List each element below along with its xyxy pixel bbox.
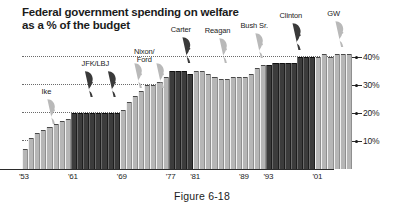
chart-title-line-1: Federal government spending on welfare [22,6,252,19]
president-head-icon [169,36,192,63]
president-label: Reagan [205,27,231,35]
president-label-line: Ike [42,87,52,96]
y-axis-label: 20% [363,108,379,118]
president-label: Clinton [280,12,303,20]
president-label: Nixon/Ford [134,48,155,64]
x-axis-label: '89 [239,172,249,181]
president-head-icon [243,32,265,58]
y-axis-label: 10% [363,136,379,146]
figure-6-18: Federal government spending on welfare a… [0,0,404,214]
x-axis-label: '61 [68,172,78,181]
president-label: Carter [171,26,191,34]
y-axis-tick-dot [355,140,358,143]
president-label-line: GW [327,9,340,18]
y-axis-label: 40% [363,52,379,62]
president-label-line: Reagan [205,26,231,35]
y-axis-label: 30% [363,80,379,90]
president-label: Bush Sr. [240,22,268,30]
x-axis-label: '53 [19,172,29,181]
x-axis-label: '77 [166,172,176,181]
president-head-icon [279,22,303,50]
president-head-icon [35,98,57,124]
figure-caption: Figure 6-18 [0,190,404,202]
president-label-line: Bush Sr. [240,21,268,30]
president-label: Ike [42,88,52,96]
president-label-line: JFK/LBJ [82,59,110,68]
president-label: GW [327,10,340,18]
y-axis-tick-dot [355,56,358,59]
x-axis-label: '81 [190,172,200,181]
x-axis-label: '93 [264,172,274,181]
president-head-icon [207,37,229,63]
president-head-icon [72,70,118,97]
x-axis-label: '69 [117,172,127,181]
y-axis-tick-dot [355,84,358,87]
president-label-line: Carter [171,25,191,34]
president-label-line: Ford [137,55,152,64]
president-label-line: Clinton [280,11,303,20]
x-axis-baseline [0,169,334,170]
president-label: JFK/LBJ [82,60,110,68]
x-axis-label: '01 [312,172,322,181]
president-head-icon [322,20,345,47]
bar [346,54,352,169]
y-axis-tick-dot [355,112,358,115]
president-head-icon [122,62,166,88]
